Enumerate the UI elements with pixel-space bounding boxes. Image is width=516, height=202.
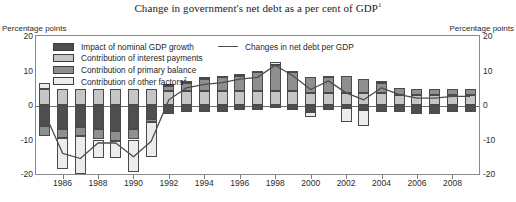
y-axis-tick-label: 0 — [28, 100, 33, 110]
x-axis-tick-mark — [346, 175, 347, 179]
x-axis-tick-mark — [452, 175, 453, 179]
chart-container: Change in government's net debt as a per… — [0, 0, 516, 202]
x-axis-tick-label: 2006 — [408, 178, 427, 188]
x-axis-tick-label: 1988 — [89, 178, 108, 188]
x-axis-tick-mark — [311, 175, 312, 179]
legend: Impact of nominal GDP growthContribution… — [53, 41, 203, 87]
x-axis-tick-label: 1994 — [195, 178, 214, 188]
x-axis-tick-label: 1998 — [266, 178, 285, 188]
line-swatch-icon — [218, 46, 238, 47]
x-axis-tick-label: 2008 — [443, 178, 462, 188]
y-axis-tick-label: 10 — [24, 66, 33, 76]
y-axis-unit-right: Percentage points — [450, 24, 515, 33]
x-axis-tick-mark — [98, 175, 99, 179]
legend-item: Contribution of primary balance — [53, 64, 203, 76]
legend-swatch-icon — [53, 54, 74, 62]
legend-swatch-icon — [53, 43, 74, 51]
legend-swatch-icon — [53, 77, 74, 85]
legend-superscript: 2 — [183, 76, 186, 82]
legend-item-label: Contribution of interest payments — [81, 53, 203, 63]
x-axis-tick-mark — [275, 175, 276, 179]
x-axis-tick-mark — [382, 175, 383, 179]
page-title: Change in government's net debt as a per… — [0, 1, 516, 14]
legend-swatch-icon — [53, 66, 74, 74]
title-text: Change in government's net debt as a per… — [134, 2, 378, 14]
x-axis-tick-mark — [417, 175, 418, 179]
x-axis-tick-label: 1996 — [230, 178, 249, 188]
legend-item: Contribution of interest payments — [53, 53, 203, 65]
x-axis-tick-mark — [240, 175, 241, 179]
legend-item: Impact of nominal GDP growth — [53, 41, 203, 53]
x-axis-tick-mark — [133, 175, 134, 179]
y-axis-tick-label: -20 — [21, 169, 33, 179]
y-axis-unit-left: Percentage points — [2, 24, 67, 33]
title-superscript: 1 — [378, 1, 382, 9]
legend-line-entry: Changes in net debt per GDP — [218, 41, 354, 53]
legend-item-label: Contribution of other factors2 — [81, 76, 187, 87]
x-axis-tick-mark — [204, 175, 205, 179]
y-axis-tick-label: 0 — [483, 100, 488, 110]
legend-item-label: Impact of nominal GDP growth — [81, 42, 194, 52]
x-axis-tick-label: 1990 — [124, 178, 143, 188]
y-axis-tick-label: 20 — [24, 31, 33, 41]
x-axis-tick-mark — [169, 175, 170, 179]
y-axis-tick-label: -20 — [483, 169, 495, 179]
x-axis-tick-label: 2000 — [301, 178, 320, 188]
y-axis-tick-label: -10 — [483, 135, 495, 145]
y-axis-tick-label: 20 — [483, 31, 492, 41]
legend-item: Contribution of other factors2 — [53, 76, 203, 88]
y-axis-tick-label: 10 — [483, 66, 492, 76]
x-axis-tick-mark — [63, 175, 64, 179]
x-axis-tick-label: 2002 — [337, 178, 356, 188]
legend-item-label: Contribution of primary balance — [81, 65, 196, 75]
x-axis-tick-label: 1986 — [53, 178, 72, 188]
legend-line-label: Changes in net debt per GDP — [245, 42, 354, 52]
x-axis-tick-label: 1992 — [159, 178, 178, 188]
x-axis-tick-label: 2004 — [372, 178, 391, 188]
y-axis-tick-label: -10 — [21, 135, 33, 145]
